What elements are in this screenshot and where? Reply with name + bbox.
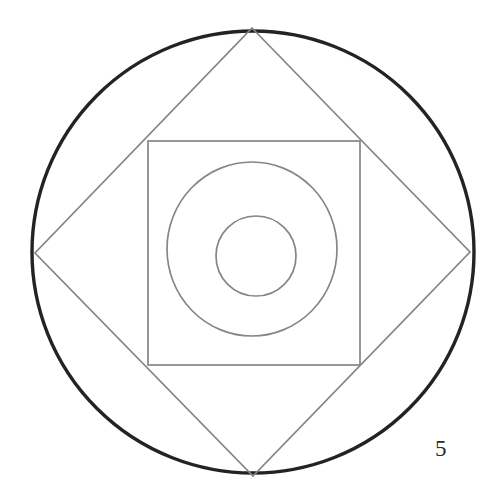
figure-number-label: 5 [424, 435, 458, 463]
inner-circle [216, 216, 296, 296]
inscribed-diamond [35, 28, 470, 476]
geometric-diagram [0, 0, 493, 499]
figure-canvas: 5 [0, 0, 493, 499]
medium-circle [167, 162, 337, 336]
inner-square [148, 141, 360, 365]
outer-circle [32, 31, 474, 473]
